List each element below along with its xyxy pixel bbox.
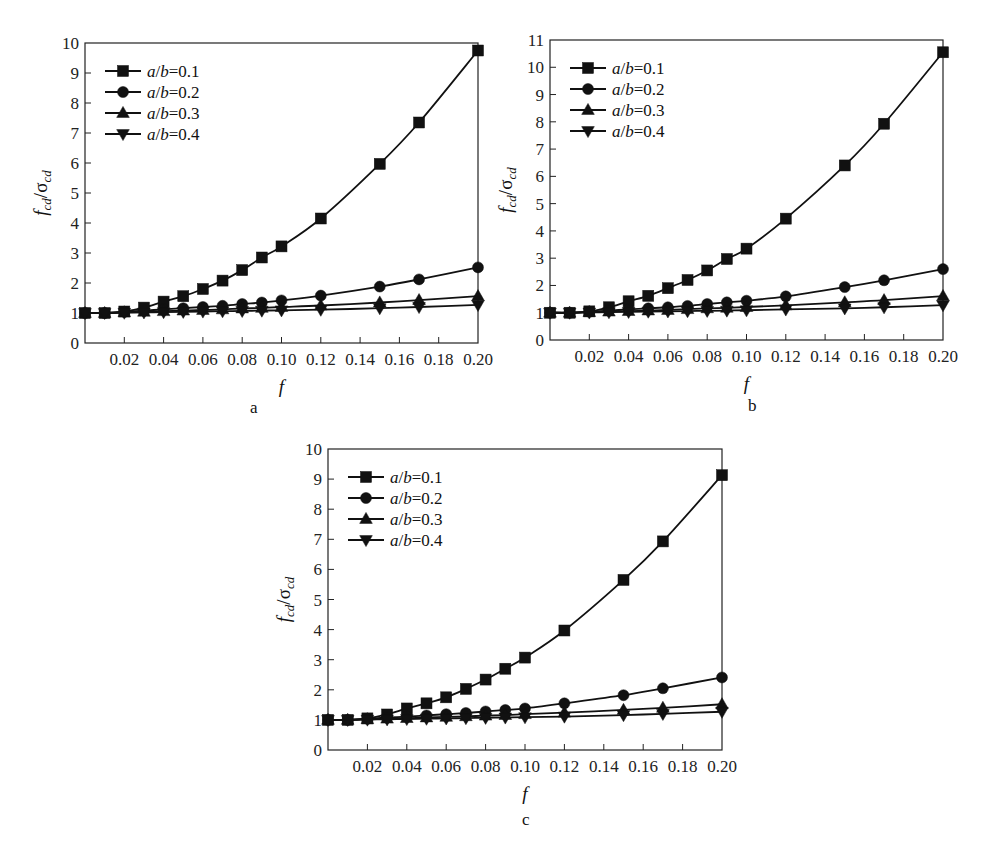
y-tick-label: 10 [305, 440, 322, 459]
legend-label: a/b=0.3 [390, 510, 443, 529]
x-tick-label: 0.10 [510, 757, 540, 776]
square-marker-icon [460, 683, 471, 694]
x-tick-label: 0.16 [628, 757, 658, 776]
panel-label-c: c [522, 810, 530, 830]
square-marker-icon [559, 625, 570, 636]
y-tick-label: 4 [314, 621, 323, 640]
y-axis-title: fcd/σcd [273, 576, 297, 622]
circle-marker-icon [717, 672, 728, 683]
square-marker-icon [500, 663, 511, 674]
x-tick-label: 0.18 [668, 757, 698, 776]
circle-marker-icon [618, 690, 629, 701]
x-tick-label: 0.04 [392, 757, 422, 776]
y-tick-label: 9 [314, 470, 323, 489]
x-tick-label: 0.06 [431, 757, 461, 776]
legend-label: a/b=0.4 [390, 531, 443, 550]
x-tick-label: 0.08 [471, 757, 501, 776]
x-tick-label: 0.02 [353, 757, 383, 776]
square-marker-icon [657, 536, 668, 547]
triangle-up-marker-icon [716, 698, 729, 709]
x-tick-label: 0.14 [589, 757, 619, 776]
legend-triangle-down-icon [360, 536, 373, 547]
square-marker-icon [618, 574, 629, 585]
y-tick-label: 2 [314, 681, 323, 700]
square-marker-icon [421, 698, 432, 709]
legend-label: a/b=0.2 [390, 489, 443, 508]
square-marker-icon [520, 652, 531, 663]
legend-circle-icon [361, 493, 372, 504]
x-tick-label: 0.12 [550, 757, 580, 776]
triangle-down-marker-icon [617, 711, 630, 722]
x-axis-title: f [522, 783, 530, 804]
y-tick-label: 3 [314, 651, 323, 670]
square-marker-icon [717, 470, 728, 481]
chart-c-svg: 0123456789100.020.040.060.080.100.120.14… [0, 0, 991, 850]
legend: a/b=0.1a/b=0.2a/b=0.3a/b=0.4 [348, 468, 443, 550]
triangle-down-marker-icon [657, 709, 670, 720]
y-tick-label: 8 [314, 500, 323, 519]
chart-panel-c: 0123456789100.020.040.060.080.100.120.14… [0, 0, 991, 850]
y-tick-label: 7 [314, 530, 323, 549]
x-tick-label: 0.20 [707, 757, 737, 776]
triangle-down-marker-icon [716, 707, 729, 718]
y-tick-label: 6 [314, 560, 323, 579]
legend-triangle-up-icon [360, 512, 373, 523]
square-marker-icon [480, 674, 491, 685]
square-marker-icon [441, 692, 452, 703]
legend-label: a/b=0.1 [390, 468, 443, 487]
y-tick-label: 5 [314, 591, 323, 610]
legend-square-icon [361, 472, 372, 483]
triangle-down-marker-icon [558, 712, 571, 723]
circle-marker-icon [657, 683, 668, 694]
y-tick-label: 0 [314, 741, 323, 760]
y-tick-label: 1 [314, 711, 323, 730]
